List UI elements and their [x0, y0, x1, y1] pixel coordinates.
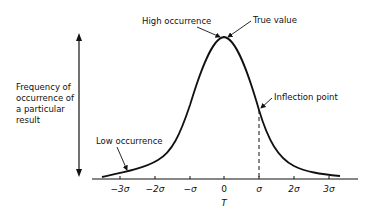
normal-distribution-diagram: Frequency of occurrence of a particular …: [0, 0, 372, 215]
x-tick-labels: −3σ −2σ −σ 0 σ 2σ 3σ: [111, 184, 335, 194]
frequency-arrow: [76, 33, 82, 177]
bell-curve: [102, 37, 340, 177]
svg-text:3σ: 3σ: [323, 184, 335, 194]
svg-text:2σ: 2σ: [288, 184, 300, 194]
y-axis-label: Frequency of occurrence of a particular …: [16, 82, 75, 125]
svg-text:0: 0: [221, 184, 227, 194]
svg-text:σ: σ: [256, 184, 262, 194]
low-occurrence-label: Low occurrence: [96, 136, 163, 146]
svg-text:−σ: −σ: [183, 184, 197, 194]
svg-text:result: result: [16, 115, 41, 125]
svg-text:−2σ: −2σ: [146, 184, 165, 194]
high-occurrence-label: High occurrence: [142, 16, 211, 26]
svg-text:Frequency of: Frequency of: [16, 82, 72, 92]
inflection-point-label: Inflection point: [274, 92, 338, 102]
svg-text:a particular: a particular: [16, 104, 65, 114]
x-axis-label: T: [221, 198, 228, 208]
svg-text:−3σ: −3σ: [111, 184, 130, 194]
true-value-label: True value: [252, 15, 297, 25]
svg-text:occurrence of: occurrence of: [16, 93, 75, 103]
